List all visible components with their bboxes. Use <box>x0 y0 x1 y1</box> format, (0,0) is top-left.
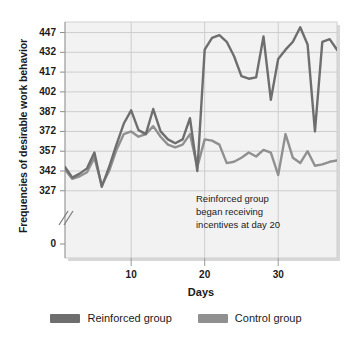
y-tick-label: 432 <box>22 47 56 57</box>
y-tick-label: 372 <box>22 126 56 136</box>
legend-swatch-reinforced-group <box>50 314 80 323</box>
y-tick-label: 357 <box>22 146 56 156</box>
legend-item-control-group: Control group <box>198 312 302 324</box>
line-chart: Frequencies of desirable work behavior D… <box>0 0 352 344</box>
x-axis-title: Days <box>65 286 337 298</box>
x-tick-label: 10 <box>116 270 146 280</box>
x-tick-label: 20 <box>190 270 220 280</box>
legend-label-reinforced-group: Reinforced group <box>87 312 171 324</box>
y-tick-label-zero: 0 <box>22 239 56 249</box>
legend-label-control-group: Control group <box>235 312 302 324</box>
y-tick-label: 327 <box>22 186 56 196</box>
y-tick-label: 417 <box>22 67 56 77</box>
y-tick-label: 447 <box>22 28 56 38</box>
legend-item-reinforced-group: Reinforced group <box>50 312 171 324</box>
legend-swatch-control-group <box>198 314 228 323</box>
chart-annotation: Reinforced group began receiving incenti… <box>196 192 280 231</box>
y-tick-label: 402 <box>22 87 56 97</box>
x-tick-label: 30 <box>263 270 293 280</box>
y-tick-label: 387 <box>22 107 56 117</box>
y-tick-label: 342 <box>22 166 56 176</box>
chart-legend: Reinforced group Control group <box>0 312 352 324</box>
